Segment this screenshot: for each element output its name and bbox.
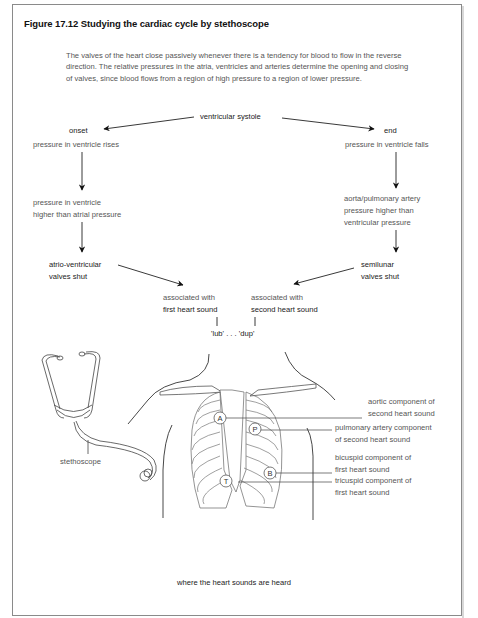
marker-t-label: T (224, 477, 229, 486)
arrow-av-to-first (118, 265, 183, 285)
diagram-artwork: A P B T (0, 0, 478, 618)
marker-a-label: A (217, 414, 222, 423)
flow-arrows (82, 117, 396, 326)
arrow-to-onset (104, 117, 194, 129)
arrow-semilunar-to-second (294, 268, 354, 284)
arrow-to-end (282, 118, 374, 129)
rib-cage (191, 390, 282, 508)
marker-p-label: P (252, 425, 257, 434)
marker-b-label: B (267, 469, 272, 478)
stethoscope-drawing (42, 352, 156, 481)
